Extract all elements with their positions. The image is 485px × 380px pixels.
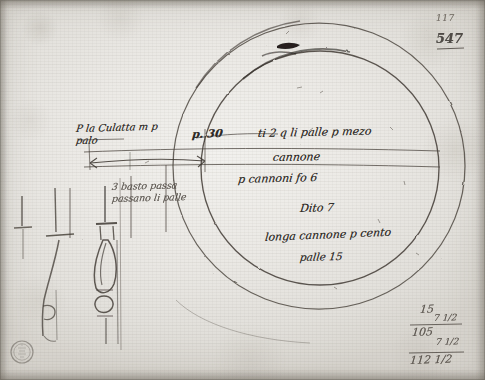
calculation-rules bbox=[409, 324, 464, 353]
edge-left bbox=[0, 0, 8, 380]
collection-stamp bbox=[11, 341, 33, 363]
cannon-profile-left bbox=[42, 188, 74, 341]
edge-right bbox=[476, 0, 485, 380]
edge-bottom bbox=[0, 370, 485, 380]
dimension-lines bbox=[78, 134, 440, 167]
cannon-profile-right bbox=[94, 186, 118, 344]
inner-circle bbox=[201, 49, 439, 285]
edge-top bbox=[0, 0, 485, 9]
ink-blot bbox=[262, 43, 300, 56]
vertical-guides bbox=[70, 165, 166, 238]
ramrod-sketch bbox=[14, 196, 32, 259]
catalog-underline bbox=[437, 48, 464, 49]
ink-drawing-layer bbox=[0, 0, 485, 380]
manuscript-folio: 117 547 P la Culatta m p palo p. 30 3 ba… bbox=[0, 0, 485, 380]
vertical-rule bbox=[120, 178, 121, 350]
